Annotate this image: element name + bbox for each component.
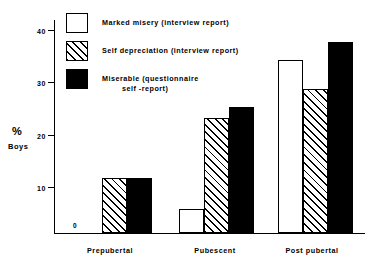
bar-prepubertal-miserable <box>127 178 152 233</box>
bar-pubescent-self-depreciation <box>204 118 229 233</box>
x-category-label-prepubertal: Prepubertal <box>50 246 170 255</box>
bar-pubescent-miserable <box>229 107 254 233</box>
y-tick-label-40: 40 <box>37 28 46 35</box>
y-tick-label-wrap-30: 30 <box>0 82 46 83</box>
y-axis-title-boys: Boys <box>8 140 48 153</box>
bar-post-pubertal-self-depreciation <box>303 89 328 233</box>
plot-area <box>54 20 365 233</box>
y-axis-title-percent: % <box>12 126 48 137</box>
y-tick-label-30: 30 <box>37 80 46 87</box>
bar-group-post-pubertal <box>278 20 353 233</box>
bar-prepubertal-self-depreciation <box>102 178 127 233</box>
y-tick-label-10: 10 <box>37 185 46 192</box>
bar-group-pubescent <box>179 20 254 233</box>
bar-chart: Marked misery (interview report) Self de… <box>0 0 370 274</box>
bar-post-pubertal-marked-misery <box>278 60 303 233</box>
y-tick-label-wrap-10: 10 <box>0 187 46 188</box>
bar-post-pubertal-miserable <box>328 42 353 233</box>
y-tick-label-wrap-40: 40 <box>0 30 46 31</box>
x-axis-line <box>54 233 365 234</box>
y-axis-title: % Boys <box>8 126 48 153</box>
x-category-label-post-pubertal: Post pubertal <box>252 246 370 255</box>
bar-pubescent-marked-misery <box>179 209 204 233</box>
bar-group-prepubertal <box>77 20 152 233</box>
zero-value-annotation: 0 <box>73 222 77 229</box>
